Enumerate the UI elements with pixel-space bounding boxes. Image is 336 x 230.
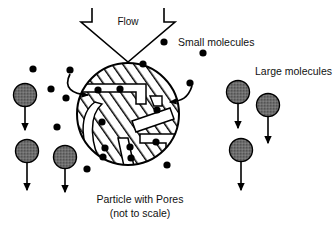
large-molecule-with-arrow <box>54 146 77 193</box>
legend-small-molecules: Small molecules <box>160 36 254 48</box>
small-molecule <box>29 65 36 72</box>
caption-line-1: Particle with Pores <box>97 193 184 205</box>
small-molecule <box>186 79 193 86</box>
large-molecule-with-arrow <box>227 81 250 129</box>
small-molecule-legend-dot <box>160 38 167 45</box>
large-molecule <box>230 139 253 162</box>
large-molecule <box>257 94 280 117</box>
small-molecule <box>116 85 123 92</box>
small-molecule <box>94 86 101 93</box>
large-molecule <box>16 140 39 163</box>
small-molecule <box>83 165 90 172</box>
large-molecule-with-arrow <box>16 140 39 191</box>
large-molecule-with-arrow <box>230 139 253 191</box>
large-molecule <box>54 146 77 169</box>
small-molecule <box>127 154 134 161</box>
small-molecule <box>98 118 105 125</box>
small-molecule <box>62 94 69 101</box>
small-molecule <box>126 143 133 150</box>
large-molecule <box>14 84 37 107</box>
small-molecule <box>139 60 146 67</box>
small-molecule <box>66 66 73 73</box>
small-molecule <box>152 138 159 145</box>
small-molecule <box>47 85 54 92</box>
large-molecule-group-right <box>227 81 280 191</box>
small-molecule <box>199 49 206 56</box>
large-molecule-with-arrow <box>14 84 37 131</box>
small-molecule <box>153 106 160 113</box>
large-molecule <box>227 81 250 104</box>
small-molecule <box>53 123 60 130</box>
caption-line-2: (not to scale) <box>110 207 171 219</box>
legend-large-molecules: Large molecules <box>255 65 332 77</box>
diagram-canvas: Flow Small molecules Large molecules <box>0 0 336 230</box>
small-molecule <box>163 161 170 168</box>
small-molecule <box>99 153 106 160</box>
large-molecules-label: Large molecules <box>255 65 332 77</box>
large-molecule-with-arrow <box>257 94 280 144</box>
small-molecule <box>101 144 108 151</box>
small-molecules-label: Small molecules <box>178 36 254 48</box>
flow-label: Flow <box>117 16 139 27</box>
size-exclusion-chromatography-diagram: Flow Small molecules Large molecules <box>0 0 336 230</box>
